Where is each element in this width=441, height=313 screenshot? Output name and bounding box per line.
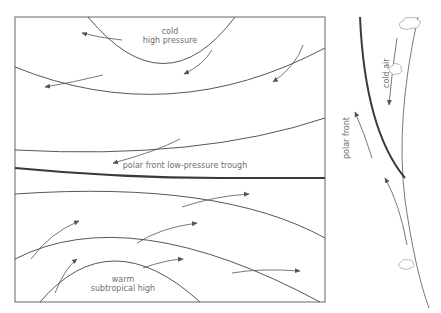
main-panel (15, 17, 325, 302)
cloud-icon (399, 259, 415, 269)
isobar-upper-2 (15, 118, 325, 152)
warm-high-label-line2: subtropical high (88, 284, 158, 293)
polar-front-trough-label: polar front low-pressure trough (115, 161, 255, 170)
wind-arrow-icon (184, 50, 212, 74)
cold-high-label-line1: cold (135, 27, 205, 36)
side-panel (355, 17, 429, 308)
diagram-canvas (0, 0, 441, 313)
panel-frame (15, 17, 325, 302)
cloud-icon (399, 17, 420, 29)
wind-arrow-icon (182, 194, 249, 207)
wind-arrow-icon (82, 33, 122, 40)
polar-front-line (360, 17, 405, 178)
polar-front-arrow-icon (355, 112, 372, 158)
cold-high-label: cold high pressure (135, 27, 205, 45)
wind-arrow-icon (273, 45, 303, 82)
warm-high-label-line1: warm (88, 275, 158, 284)
warm-high-label: warm subtropical high (88, 275, 158, 293)
wind-arrow-icon (55, 259, 77, 293)
isobar-lower-1 (15, 191, 325, 238)
polar-front-label: polar front (342, 117, 351, 159)
wind-arrow-icon (232, 270, 300, 273)
cold-air-label: cold air (382, 58, 391, 88)
cold-high-label-line2: high pressure (135, 36, 205, 45)
wind-arrow-icon (143, 259, 183, 268)
isobar-upper-1 (15, 48, 325, 94)
wind-arrow-icon (45, 75, 103, 87)
